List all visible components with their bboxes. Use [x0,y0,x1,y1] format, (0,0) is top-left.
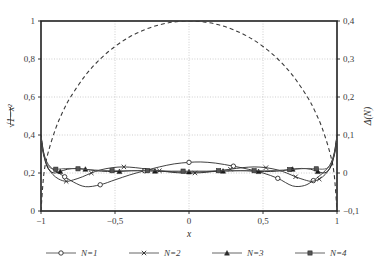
legend-label: N=2 [163,248,181,258]
y-tick-label-left: 0,8 [24,54,36,64]
marker-circle-open-icon [276,176,280,180]
marker-x-icon [89,171,93,175]
ticks-layer: −1−0,500,5100,20,40,60,81−0,100,10,20,30… [24,16,360,226]
legend-item-N-4[interactable]: N=4 [295,248,347,258]
y-tick-label-left: 0,6 [24,92,36,102]
marker-square-filled-icon [252,169,256,173]
legend-item-N-2[interactable]: N=2 [129,248,181,258]
marker-square-filled-icon [110,169,114,173]
marker-x-icon [293,175,297,179]
legend-label: N=4 [329,248,347,258]
marker-circle-open-icon [98,183,102,187]
chart-svg: −1−0,500,5100,20,40,60,81−0,100,10,20,30… [0,0,382,269]
marker-square-filled-icon [308,251,312,255]
grid-layer [41,21,337,211]
marker-square-filled-icon [145,169,149,173]
y-tick-label-left: 0,4 [24,130,36,140]
x-tick-label: 0 [187,216,192,226]
legend-label: N=1 [80,248,98,258]
y-tick-label-right: 0,2 [343,92,354,102]
x-tick-label: −0,5 [107,216,124,226]
y-tick-label-right: 0 [343,168,348,178]
y-tick-label-right: 0,3 [343,54,355,64]
y-tick-label-right: −0,1 [343,206,359,216]
y-axis-label-right: Δ(N) [363,107,374,126]
legend-label: N=3 [246,248,264,258]
marker-square-filled-icon [217,169,221,173]
marker-circle-open-icon [187,160,191,164]
marker-square-filled-icon [76,167,80,171]
x-tick-label: −1 [36,216,46,226]
y-tick-label-right: 0,4 [343,16,355,26]
marker-x-icon [317,177,321,181]
y-axis-label-left: √1−x² [6,104,16,128]
legend-item-N-1[interactable]: N=1 [46,248,98,258]
x-axis-label: x [186,229,192,239]
y-tick-label-left: 0,2 [24,168,35,178]
y-tick-label-left: 0 [31,206,36,216]
marker-square-filled-icon [54,167,58,171]
marker-square-filled-icon [314,167,318,171]
chart-figure: −1−0,500,5100,20,40,60,81−0,100,10,20,30… [0,0,382,269]
x-tick-label: 1 [335,216,340,226]
y-tick-label-right: 0,1 [343,130,354,140]
legend-item-N-3[interactable]: N=3 [212,248,264,258]
x-tick-label: 0,5 [257,216,269,226]
marker-circle-open-icon [59,251,63,255]
legend: N=1N=2N=3N=4 [46,248,347,258]
marker-square-filled-icon [181,169,185,173]
marker-square-filled-icon [288,167,292,171]
marker-circle-open-icon [62,175,66,179]
y-tick-label-left: 1 [31,16,36,26]
